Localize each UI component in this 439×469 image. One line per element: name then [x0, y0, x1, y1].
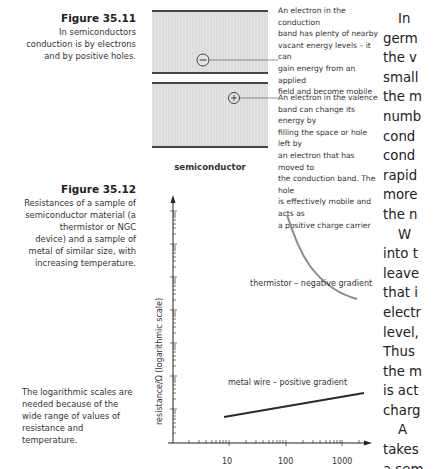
body-line: W — [383, 225, 423, 245]
body-line: small — [383, 68, 423, 88]
figure-35-12-title: Figure 35.12 — [0, 183, 136, 195]
logarithmic-scale-note: The logarithmic scales are needed becaus… — [22, 386, 152, 446]
note-line: The logarithmic scales are — [22, 386, 152, 398]
caption-line: and by positive holes. — [0, 50, 136, 62]
note-line: band can change its energy by — [278, 104, 378, 127]
resistance-temperature-chart — [150, 190, 375, 455]
body-line: Thus — [383, 342, 423, 362]
caption-line: Resistances of a sample of — [0, 197, 136, 209]
note-line: gain energy from an applied — [278, 63, 378, 86]
body-line: cond — [383, 127, 423, 147]
note-line: wide range of values of — [22, 410, 152, 422]
body-line: a sem — [383, 460, 423, 469]
body-line: rapid — [383, 166, 423, 186]
note-line: temperature. — [22, 434, 152, 446]
caption-line: device) and a sample of — [0, 233, 136, 245]
conduction-band-note: An electron in the conduction band has p… — [278, 5, 378, 98]
note-line: resistance and — [22, 422, 152, 434]
body-line: leave — [383, 264, 423, 284]
body-line: into t — [383, 244, 423, 264]
body-line: the n — [383, 205, 423, 225]
body-line: In — [383, 9, 423, 29]
note-line: an electron that has moved to — [278, 150, 378, 173]
x-axis-arrow-icon — [364, 441, 372, 446]
body-line: takes — [383, 440, 423, 460]
caption-line: increasing temperature. — [0, 257, 136, 269]
caption-line: metal of similar size, with — [0, 245, 136, 257]
body-line: charg — [383, 401, 423, 421]
body-line: is act — [383, 381, 423, 401]
x-tick-10: 10 — [222, 457, 232, 466]
figure-35-11-caption: In semiconductors conduction is by elect… — [0, 26, 136, 62]
thermistor-label: thermistor – negative gradient — [250, 279, 372, 288]
x-tick-1000: 1000 — [332, 457, 352, 466]
figure-35-11-title: Figure 35.11 — [0, 12, 136, 24]
note-line: vacant energy levels – it can — [278, 40, 378, 63]
body-line: A — [383, 420, 423, 440]
body-line: germ — [383, 29, 423, 49]
body-line: more — [383, 185, 423, 205]
caption-line: In semiconductors — [0, 26, 136, 38]
body-line: level, — [383, 323, 423, 343]
note-line: An electron in the valence — [278, 92, 378, 104]
note-line: An electron in the conduction — [278, 5, 378, 28]
body-line: the m — [383, 87, 423, 107]
body-line: the v — [383, 48, 423, 68]
note-line: needed because of the — [22, 398, 152, 410]
y-axis-label: resistance/Ω (logarithmic scale) — [155, 298, 164, 425]
note-line: band has plenty of nearby — [278, 28, 378, 40]
body-line: the m — [383, 362, 423, 382]
body-line: cond — [383, 146, 423, 166]
body-line: numb — [383, 107, 423, 127]
y-axis-arrow-icon — [171, 195, 176, 203]
note-line: filling the space or hole left by — [278, 127, 378, 150]
band-diagram-overlay — [150, 0, 280, 160]
semiconductor-label: semiconductor — [152, 162, 268, 172]
caption-line: conduction is by electrons — [0, 38, 136, 50]
body-line: that i — [383, 283, 423, 303]
x-tick-100: 100 — [278, 457, 293, 466]
figure-35-12-caption: Resistances of a sample of semiconductor… — [0, 197, 136, 269]
caption-line: thermistor or NGC — [0, 221, 136, 233]
caption-line: semiconductor material (a — [0, 209, 136, 221]
metal-wire-label: metal wire – positive gradient — [228, 378, 347, 387]
body-text-column: In germ the v small the m numb cond cond… — [383, 9, 423, 469]
body-line: electr — [383, 303, 423, 323]
metal-wire-line — [224, 393, 364, 417]
